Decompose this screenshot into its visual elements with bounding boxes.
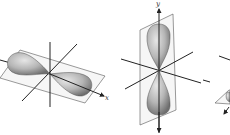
- p-orbitals-diagram: x y: [0, 0, 230, 135]
- pz-orbital-panel-partial: [203, 56, 230, 114]
- py-orbital-panel: y: [121, 0, 201, 133]
- axis-fragment-arrow: [224, 107, 229, 114]
- px-orbital-panel: x: [0, 42, 109, 107]
- x-axis-label: x: [105, 94, 109, 102]
- axis-fragment-2: [203, 80, 210, 82]
- y-axis-label: y: [155, 0, 161, 8]
- axis-fragment-1: [219, 56, 230, 60]
